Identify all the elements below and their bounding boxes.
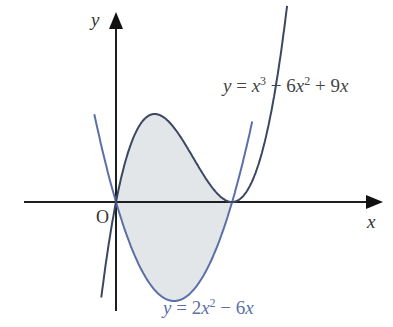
- cubic-mid: − 6: [266, 75, 296, 96]
- x-axis-arrow-icon: [366, 195, 383, 209]
- cubic-equation-label: y = x3 − 6x2 + 9x: [223, 76, 348, 95]
- cubic-t1: x: [252, 75, 260, 96]
- y-axis-arrow-icon: [109, 12, 123, 29]
- cubic-tail: + 9: [310, 75, 340, 96]
- origin-label: O: [96, 208, 109, 226]
- cubic-t2: x: [296, 75, 304, 96]
- shaded-area-between-curves: [116, 114, 232, 301]
- y-axis-label: y: [91, 10, 99, 29]
- graph-figure: [0, 0, 393, 327]
- parabola-equation-label: y = 2x2 − 6x: [163, 298, 254, 317]
- parabola-mid: − 6: [216, 297, 246, 318]
- parabola-eq: = 2: [171, 297, 201, 318]
- x-axis-label: x: [367, 212, 375, 231]
- cubic-t3: x: [340, 75, 348, 96]
- parabola-t1: x: [201, 297, 209, 318]
- parabola-t2: x: [245, 297, 253, 318]
- cubic-eq: =: [231, 75, 251, 96]
